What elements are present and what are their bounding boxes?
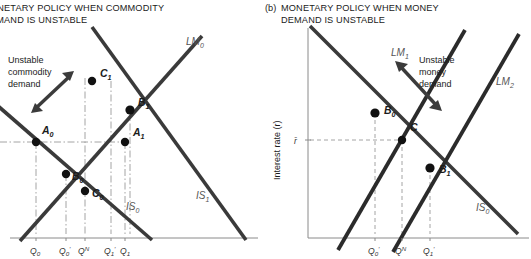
panel-b-annotation: Unstable money demand — [419, 55, 455, 89]
panel-b-label-lm2: LM2 — [496, 76, 514, 89]
panel-a-point-c1 — [88, 77, 96, 85]
panel-b-curve-lm2 — [393, 34, 519, 252]
panel-b-annotation-line3: demand — [419, 79, 452, 89]
panel-a-point-label-c0: C0 — [92, 187, 104, 202]
panel-a-tick-label-q1: Q1 — [120, 246, 130, 257]
panel-b-tick-label-q1prime: Q1′ — [423, 245, 435, 257]
panel-a-chart: LM0 IS1 IS0 A0 A1 B0 B1 C0 C1 Unstable c… — [0, 0, 265, 259]
panel-b-label-lm1: LM1 — [391, 47, 409, 60]
panel-a-annotation-line1: Unstable — [8, 55, 44, 65]
panel-b-point-label-c: C — [410, 121, 418, 133]
panel-a-point-c0 — [81, 187, 89, 195]
panel-a-point-b1 — [125, 105, 134, 114]
svg-text:IS0: IS0 — [126, 201, 139, 214]
panel-b-y-tick-label-rbar: r̄ — [294, 136, 298, 146]
panel-a-annotation-line3: demand — [8, 79, 41, 89]
panel-a-tick-label-q1prime: Q1′ — [104, 245, 116, 257]
panel-b-point-c — [398, 136, 406, 144]
panel-a-point-a1 — [121, 138, 129, 146]
panel-a-point-label-c1: C1 — [100, 67, 112, 82]
panel-a-annotation-line2: commodity — [8, 67, 52, 77]
panel-b-annotation-line2: money — [419, 67, 447, 77]
panel-b-point-b0 — [370, 108, 379, 117]
panel-a-tick-label-q0: Q0 — [30, 246, 41, 257]
panel-a-point-label-a0: A0 — [41, 124, 54, 139]
panel-b-chart: LM1 LM2 IS0 B0 B1 C Unstable money deman… — [265, 0, 531, 259]
panel-a-point-label-a1: A1 — [132, 126, 145, 141]
panel-b-point-label-b0: B0 — [384, 104, 396, 119]
panel-b-y-axis-title: Interest rate (r) — [272, 120, 282, 180]
panel-a-point-b0 — [62, 170, 70, 178]
panel-b-annotation-line1: Unstable — [419, 55, 455, 65]
panel-a-label-is1: IS1 — [196, 190, 209, 203]
svg-text:IS1: IS1 — [196, 190, 209, 203]
panel-b-tick-label-qn: QN — [395, 245, 407, 257]
panel-a-tick-label-q0prime: Q0′ — [59, 245, 71, 257]
panel-b-tick-label-q0prime: Q0′ — [368, 245, 380, 257]
panel-a-commodity-demand: ONETARY POLICY WHEN COMMODITY EMAND IS U… — [0, 0, 265, 259]
panel-a-label-is0: IS0 — [126, 201, 139, 214]
panel-b-point-b1 — [425, 163, 434, 172]
panel-a-point-a0 — [32, 138, 40, 146]
panel-a-double-arrow-icon — [31, 71, 74, 113]
panel-b-money-demand: (b) MONETARY POLICY WHEN MONEY DEMAND IS… — [265, 0, 531, 259]
panel-a-tick-label-qn: QN — [78, 245, 90, 257]
panel-a-annotation: Unstable commodity demand — [8, 55, 52, 89]
